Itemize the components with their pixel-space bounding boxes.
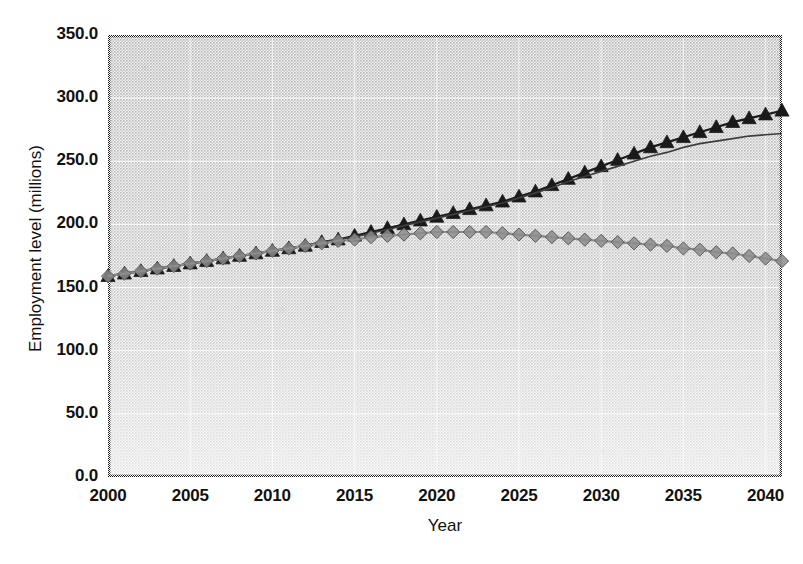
plot-area [108, 35, 782, 477]
y-tick-label: 250.0 [8, 150, 98, 170]
y-tick-label: 150.0 [8, 277, 98, 297]
y-tick-label: 300.0 [8, 87, 98, 107]
y-axis-title: Employment level (millions) [26, 145, 46, 352]
x-tick-label: 2005 [145, 486, 235, 506]
x-tick-label: 2020 [392, 486, 482, 506]
x-tick-label: 2010 [227, 486, 317, 506]
x-tick-label: 2025 [474, 486, 564, 506]
x-tick-label: 2030 [556, 486, 646, 506]
x-tick-label: 2015 [310, 486, 400, 506]
y-tick-label: 100.0 [8, 340, 98, 360]
x-tick-label: 2000 [63, 486, 153, 506]
y-tick-label: 200.0 [8, 213, 98, 233]
x-tick-label: 2040 [721, 486, 803, 506]
x-axis-title: Year [63, 516, 803, 536]
x-tick-label: 2035 [638, 486, 728, 506]
plot-background-fade [108, 35, 782, 477]
y-tick-label: 350.0 [8, 24, 98, 44]
y-tick-label: 0.0 [8, 466, 98, 486]
employment-projection-line-chart [0, 0, 803, 564]
y-tick-label: 50.0 [8, 403, 98, 423]
chart-canvas: 0.050.0100.0150.0200.0250.0300.0350.0 20… [0, 0, 803, 564]
